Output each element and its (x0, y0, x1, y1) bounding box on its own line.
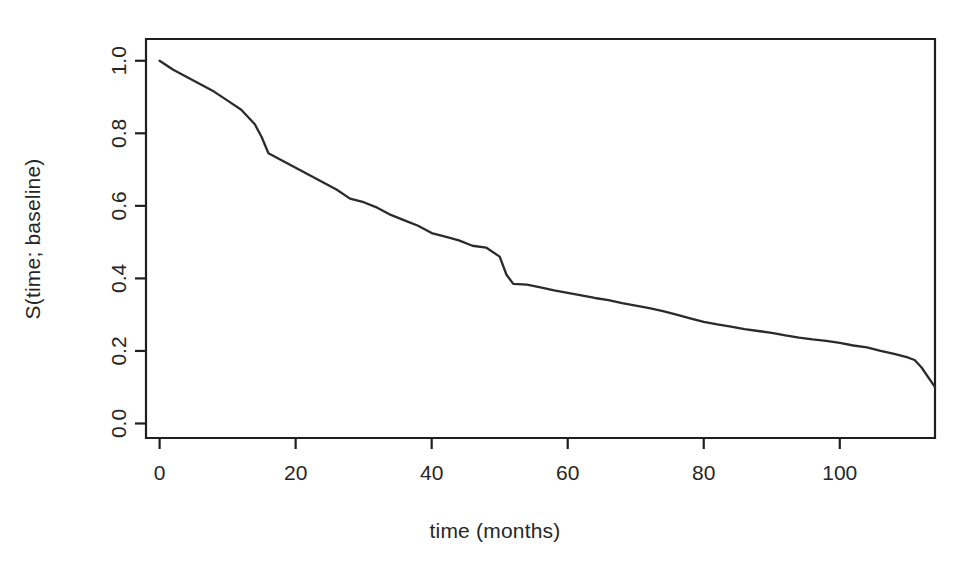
y-axis-ticks (135, 61, 146, 424)
x-tick-label-0: 0 (154, 461, 166, 484)
survival-curve-figure: 020406080100 0.00.20.40.60.81.0 time (mo… (0, 0, 966, 576)
x-tick-label-40: 40 (420, 461, 443, 484)
y-tick-label-0.0: 0.0 (107, 409, 130, 438)
x-tick-label-80: 80 (692, 461, 715, 484)
x-tick-label-100: 100 (822, 461, 857, 484)
x-tick-label-20: 20 (284, 461, 307, 484)
y-axis-tick-labels: 0.00.20.40.60.81.0 (107, 46, 130, 438)
plot-frame (146, 39, 935, 438)
x-tick-label-60: 60 (556, 461, 579, 484)
x-axis-title: time (months) (430, 519, 561, 542)
y-tick-label-0.4: 0.4 (107, 263, 130, 293)
x-axis-tick-labels: 020406080100 (154, 461, 858, 484)
y-tick-label-0.2: 0.2 (107, 336, 130, 365)
chart-canvas: 020406080100 0.00.20.40.60.81.0 time (mo… (0, 0, 966, 576)
y-tick-label-0.6: 0.6 (107, 191, 130, 220)
survival-line-baseline (160, 61, 935, 387)
y-axis-title: S(time; baseline) (21, 159, 44, 320)
x-axis-ticks (160, 438, 840, 449)
y-tick-label-0.8: 0.8 (107, 119, 130, 148)
y-tick-label-1.0: 1.0 (107, 46, 130, 75)
